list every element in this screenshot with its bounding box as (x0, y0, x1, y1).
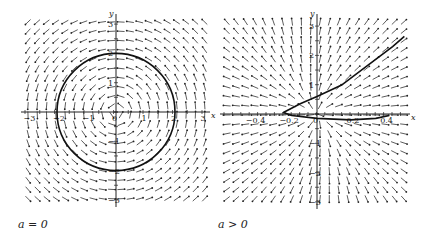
svg-text:1: 1 (108, 79, 113, 88)
svg-text:−2: −2 (309, 169, 321, 178)
svg-text:3: 3 (201, 114, 206, 123)
caption-left: a = 0 (18, 218, 48, 231)
axes (21, 14, 210, 207)
svg-text:−1: −1 (83, 114, 95, 123)
axes (220, 14, 410, 209)
tick-labels: −3−2−10123−3−2−1123xy (24, 9, 217, 205)
svg-text:−3: −3 (108, 196, 120, 205)
svg-text:y: y (309, 9, 315, 18)
svg-text:0: 0 (112, 114, 117, 123)
svg-text:3: 3 (309, 22, 314, 31)
svg-text:−1: −1 (309, 139, 321, 148)
svg-text:1: 1 (309, 81, 314, 90)
right-plot: −0.4−0.200.20.4−3−2−1123xy (220, 9, 416, 209)
svg-text:−0.4: −0.4 (246, 116, 265, 125)
svg-text:3: 3 (108, 20, 113, 29)
caption-right: a > 0 (218, 218, 248, 231)
left-plot: −3−2−10123−3−2−1123xy (21, 9, 216, 207)
tick-labels: −0.4−0.200.20.4−3−2−1123xy (246, 9, 416, 207)
svg-text:−0.2: −0.2 (279, 116, 298, 125)
svg-text:1: 1 (142, 114, 147, 123)
svg-text:−2: −2 (53, 114, 65, 123)
svg-text:x: x (211, 111, 216, 120)
svg-text:2: 2 (309, 51, 314, 60)
svg-text:x: x (411, 113, 416, 122)
figure-canvas: −3−2−10123−3−2−1123xy−0.4−0.200.20.4−3−2… (0, 0, 431, 243)
svg-text:−3: −3 (309, 198, 321, 207)
svg-text:−3: −3 (24, 114, 36, 123)
svg-text:y: y (108, 9, 114, 18)
svg-text:−1: −1 (108, 137, 120, 146)
